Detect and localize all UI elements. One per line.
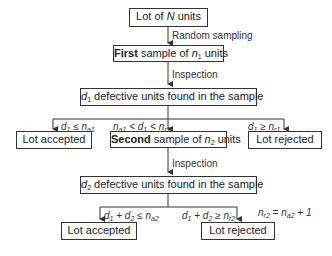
lot-accepted-box-1: Lot accepted — [16, 131, 92, 149]
rejected-2-text: Lot rejected — [209, 224, 266, 236]
cond-accept-2: d1 + d2 ≤ na2 — [104, 210, 159, 222]
nr2-annotation: nr2 = na2 + 1 — [258, 207, 312, 219]
second-sample-box: Second sample of n2 units — [110, 131, 227, 148]
lot-rejected-box-1: Lot rejected — [248, 131, 322, 149]
cond-reject-2: d1 + d2 ≥ nr2 — [182, 210, 235, 222]
d1-text: defective units found in the sample — [91, 90, 263, 102]
second-bold: Second — [111, 133, 151, 145]
random-sampling-label: Random sampling — [172, 30, 253, 42]
lot-var: N — [167, 10, 175, 22]
accepted-2-text: Lot accepted — [68, 224, 131, 236]
lot-accepted-box-2: Lot accepted — [61, 222, 137, 240]
lot-box: Lot of N units — [129, 8, 208, 27]
d2-found-box: d2 defective units found in the sample — [80, 176, 257, 194]
d1-found-box: d1 defective units found in the sample — [80, 88, 257, 106]
rejected-1-text: Lot rejected — [256, 133, 313, 145]
first-sample-box: First sample of n1 units — [113, 45, 224, 62]
lot-rejected-box-2: Lot rejected — [201, 222, 275, 240]
second-text: sample of — [151, 133, 205, 145]
accepted-1-text: Lot accepted — [23, 133, 86, 145]
lot-prefix: Lot of — [136, 10, 167, 22]
first-suffix: units — [202, 47, 228, 59]
inspection-label-1: Inspection — [172, 69, 218, 81]
first-text: sample of — [138, 47, 192, 59]
lot-suffix: units — [175, 10, 201, 22]
second-suffix: units — [215, 133, 241, 145]
first-bold: First — [114, 47, 138, 59]
inspection-label-2: Inspection — [172, 158, 218, 170]
d2-text: defective units found in the sample — [91, 178, 263, 190]
